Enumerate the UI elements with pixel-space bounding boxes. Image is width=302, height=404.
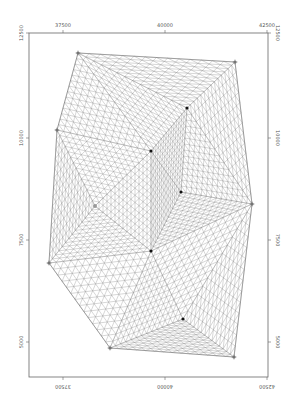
x-tick-label-top: 40000 [157, 22, 173, 28]
plot-frame [29, 33, 268, 377]
triangular-mesh [49, 53, 252, 357]
interior-point-marker [179, 190, 182, 193]
y-tick-label-right: 5000 [275, 336, 281, 349]
interior-point-marker [181, 317, 184, 320]
y-tick-label-right: 12500 [275, 25, 281, 41]
y-tick-label-right: 7500 [275, 234, 281, 247]
mesh-plot: 3750037500400004000042500425001250012500… [0, 0, 302, 404]
x-tick-label-top: 37500 [55, 22, 71, 28]
y-tick-label-left: 5000 [18, 336, 24, 349]
x-tick-label-top: 42500 [259, 22, 275, 28]
x-tick-label-bottom: 37500 [55, 384, 71, 390]
axis-ticks: 3750037500400004000042500425001250012500… [18, 22, 281, 390]
y-tick-label-left: 12500 [18, 25, 24, 41]
x-tick-label-bottom: 40000 [157, 384, 173, 390]
interior-point-marker [185, 106, 188, 109]
boundary-vertex-marker [47, 261, 52, 266]
x-tick-label-bottom: 42500 [259, 384, 275, 390]
boundary-vertex-marker [55, 128, 60, 133]
gray-point-marker [93, 204, 97, 208]
y-tick-label-right: 10000 [275, 130, 281, 146]
y-tick-label-left: 10000 [18, 130, 24, 146]
y-tick-label-left: 7500 [18, 234, 24, 247]
interior-point-marker [149, 249, 152, 252]
boundary-vertex-marker [250, 202, 255, 207]
boundary-vertex-marker [76, 51, 81, 56]
boundary-vertex-marker [232, 355, 237, 360]
interior-point-marker [149, 149, 152, 152]
boundary-vertex-marker [108, 346, 113, 351]
